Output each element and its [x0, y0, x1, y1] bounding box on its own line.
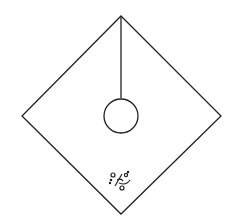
pendulum-bob-circle: [104, 99, 138, 133]
scribble-mark: [109, 171, 130, 190]
diagram-canvas: [0, 0, 230, 218]
